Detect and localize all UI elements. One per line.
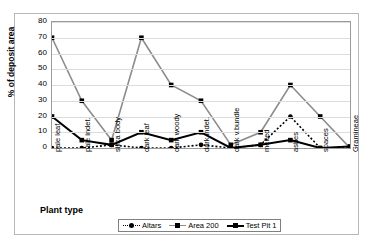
y-tick-label: 0: [43, 143, 47, 151]
gridline: [52, 117, 350, 118]
chart-figure: % of deposit area 01020304050607080 pale…: [0, 0, 375, 246]
gridline: [52, 69, 350, 70]
y-tick-label: 30: [38, 96, 47, 104]
y-tick-label: 70: [38, 33, 47, 41]
legend-swatch-icon: [227, 222, 244, 229]
chart-legend[interactable]: AltarsArea 200Test Pit 1: [118, 219, 281, 232]
x-tick-label: Gramineae: [352, 115, 360, 152]
legend-swatch-icon: [169, 222, 186, 229]
y-tick-label: 80: [38, 17, 47, 25]
y-tick-label: 60: [38, 49, 47, 57]
legend-swatch-icon: [123, 222, 140, 229]
legend-item-area-200[interactable]: Area 200: [169, 222, 218, 230]
x-tick-label: ashes: [292, 132, 300, 152]
y-tick-label: 20: [38, 112, 47, 120]
gridline: [52, 132, 350, 133]
legend-label: Test Pit 1: [246, 222, 277, 230]
gridline: [52, 85, 350, 86]
plot-area: [51, 21, 351, 149]
x-tick-label: dark v.bundle: [233, 108, 241, 152]
legend-label: Area 200: [188, 222, 218, 230]
legend-label: Altars: [142, 222, 161, 230]
data-point: [348, 144, 350, 148]
gridline: [52, 101, 350, 102]
gridline: [52, 54, 350, 55]
y-tick-label: 10: [38, 127, 47, 135]
x-tick-label: dark indet.: [203, 117, 211, 152]
x-tick-label: spaces: [322, 128, 330, 152]
x-tick-label: pale indet.: [84, 117, 92, 152]
x-tick-label: dark leaf: [143, 123, 151, 152]
legend-item-altars[interactable]: Altars: [123, 222, 161, 230]
x-axis-title: Plant type: [40, 205, 83, 215]
x-tick-label: dark woody: [173, 114, 181, 152]
x-tick-label: pale leaf: [54, 124, 62, 152]
gridline: [52, 22, 350, 23]
x-tick-label: silica body: [114, 117, 122, 152]
y-tick-label: 40: [38, 80, 47, 88]
legend-item-test-pit-1[interactable]: Test Pit 1: [227, 222, 277, 230]
gridline: [52, 38, 350, 39]
y-tick-label: 50: [38, 64, 47, 72]
x-tick-label: melted: [263, 129, 271, 152]
x-axis-tick-labels: pale leafpale indet.silica bodydark leaf…: [51, 150, 351, 206]
